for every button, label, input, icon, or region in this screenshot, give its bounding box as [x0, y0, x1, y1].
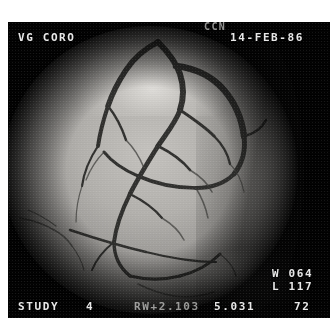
study-number-text: 4 [86, 300, 94, 313]
level-readout: L 117 [272, 280, 313, 293]
window-value: 064 [288, 267, 313, 280]
level-label: L [272, 280, 280, 293]
rotation-readout-text: RW+2.103 [134, 300, 200, 313]
angiogram-screenshot: VG CORO CCN 14-FEB-86 W 064 L 117 STUDY … [0, 0, 336, 329]
value-two-text: 72 [294, 300, 310, 313]
image-intensifier-field [8, 26, 298, 314]
operator-code-text: CCN [204, 22, 226, 32]
window-label: W [272, 267, 280, 280]
value-one-text: 5.031 [214, 300, 255, 313]
cine-image-frame: VG CORO CCN 14-FEB-86 W 064 L 117 STUDY … [8, 22, 330, 318]
level-value: 117 [288, 280, 313, 293]
study-word-text: STUDY [18, 300, 59, 313]
window-readout: W 064 [272, 267, 313, 280]
acquisition-date-text: 14-FEB-86 [230, 31, 304, 44]
study-label-text: VG CORO [18, 31, 76, 44]
